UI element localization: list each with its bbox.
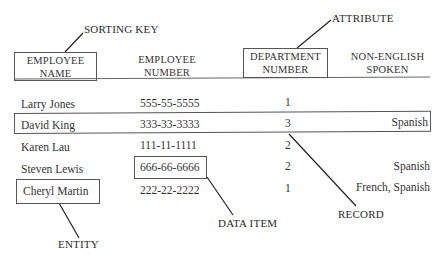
header-line2: NUMBER: [243, 63, 328, 76]
cell-dept: 2: [285, 138, 291, 152]
header-employee-number: EMPLOYEE NUMBER: [127, 53, 207, 79]
cell-language: French, Spanish: [356, 180, 430, 194]
header-line1: DEPARTMENT: [243, 50, 328, 63]
attribute-label: ATTRIBUTE: [332, 12, 394, 24]
cell-name: Cheryl Martin: [23, 184, 88, 198]
cell-number: 222-22-2222: [140, 183, 199, 197]
cell-dept: 1: [285, 95, 291, 109]
header-line2: SPOKEN: [345, 63, 430, 76]
cell-number: 555-55-5555: [140, 96, 199, 110]
header-non-english-spoken: NON-ENGLISH SPOKEN: [345, 50, 430, 76]
attribute-pointer: [297, 20, 331, 48]
data-item-pointer: [207, 177, 233, 215]
header-line1: NON-ENGLISH: [345, 50, 430, 63]
data-item-label: DATA ITEM: [218, 217, 277, 229]
header-employee-name: EMPLOYEE NAME: [14, 54, 97, 80]
cell-number: 333-33-3333: [140, 117, 199, 131]
header-line2: NUMBER: [127, 66, 207, 79]
sorting-key-pointer: [65, 33, 83, 52]
cell-name: Karen Lau: [21, 140, 70, 154]
cell-name: David King: [21, 118, 75, 132]
header-line2: NAME: [14, 67, 97, 80]
header-department-number: DEPARTMENT NUMBER: [243, 50, 328, 76]
cell-language: Spanish: [392, 115, 428, 129]
header-line1: EMPLOYEE: [14, 54, 97, 67]
cell-number: 111-11-1111: [140, 138, 197, 152]
header-line1: EMPLOYEE: [127, 53, 207, 66]
sorting-key-label: SORTING KEY: [84, 23, 159, 35]
record-box: [14, 111, 431, 134]
cell-dept: 2: [285, 159, 291, 173]
cell-language: Spanish: [394, 159, 430, 173]
cell-dept: 1: [285, 181, 291, 195]
record-pointer: [289, 134, 356, 206]
cell-name: Larry Jones: [21, 97, 75, 111]
cell-number: 666-66-6666: [140, 160, 199, 174]
record-label: RECORD: [338, 208, 384, 220]
cell-dept: 3: [285, 116, 291, 130]
cell-name: Steven Lewis: [21, 162, 83, 176]
entity-pointer: [59, 203, 79, 238]
entity-label: ENTITY: [58, 238, 99, 250]
